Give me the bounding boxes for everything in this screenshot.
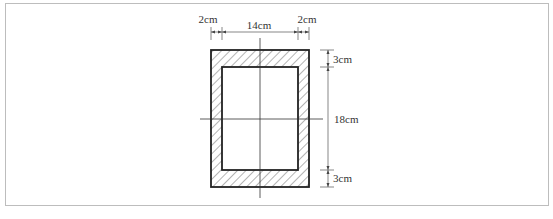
dim-inner-height: 18cm (334, 113, 359, 125)
cross-section-diagram: 2cm 14cm 2cm 3cm 18cm 3cm (0, 0, 553, 219)
dim-bottom-wall: 3cm (333, 172, 352, 184)
dim-top-wall: 3cm (333, 53, 352, 65)
dim-right-wall: 2cm (298, 13, 317, 25)
right-dimension (320, 50, 334, 187)
dim-inner-width: 14cm (247, 19, 272, 31)
dim-left-wall: 2cm (199, 13, 218, 25)
